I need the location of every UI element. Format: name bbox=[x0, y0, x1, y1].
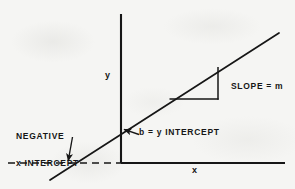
x-axis-label: x bbox=[192, 166, 197, 175]
negative-x-intercept-label-line1: NEGATIVE bbox=[16, 132, 79, 141]
negative-x-intercept-label-line2: x INTERCEPT bbox=[16, 159, 79, 168]
slope-label: SLOPE = m bbox=[231, 82, 283, 91]
linear-equation-diagram: NEGATIVE x INTERCEPT b = y INTERCEPT SLO… bbox=[0, 0, 295, 189]
y-axis-label: y bbox=[105, 71, 110, 80]
negative-x-intercept-label: NEGATIVE x INTERCEPT bbox=[16, 114, 79, 185]
y-intercept-label: b = y INTERCEPT bbox=[139, 128, 220, 137]
linear-function-line bbox=[50, 33, 279, 180]
